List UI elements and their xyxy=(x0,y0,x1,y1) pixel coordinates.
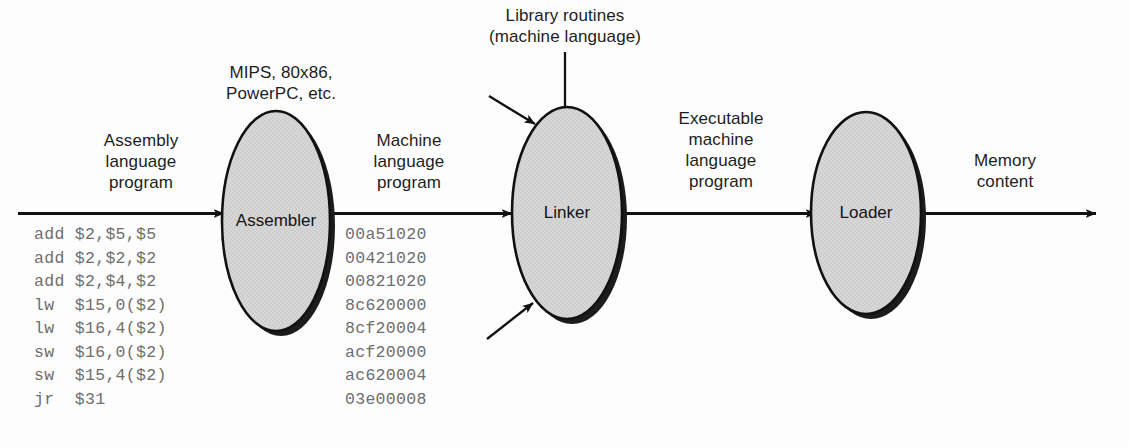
assembly-code-line: add $2,$4,$2 xyxy=(34,270,167,294)
arrow-library-lower-diagonal xyxy=(487,303,533,339)
machine-code-line: acf20000 xyxy=(345,341,427,365)
machine-code-line: 8cf20004 xyxy=(345,317,427,341)
diagram-vector-layer xyxy=(0,0,1129,447)
assembly-code-listing: add $2,$5,$5add $2,$2,$2add $2,$4,$2lw $… xyxy=(34,223,167,411)
machine-code-line: 00821020 xyxy=(345,270,427,294)
label-assembly-language-program: Assembly language program xyxy=(66,130,216,193)
assembly-code-line: jr $31 xyxy=(34,388,167,412)
loader-node-label: Loader xyxy=(806,203,926,223)
machine-code-line: 00a51020 xyxy=(345,223,427,247)
assembly-code-line: lw $15,0($2) xyxy=(34,294,167,318)
machine-code-line: 00421020 xyxy=(345,247,427,271)
machine-code-listing: 00a5102000421020008210208c6200008cf20004… xyxy=(345,223,427,411)
figure-canvas: Assembler Linker Loader Assembly languag… xyxy=(0,0,1129,447)
label-machine-language-program: Machine language program xyxy=(336,130,482,193)
machine-code-line: 03e00008 xyxy=(345,388,427,412)
assembly-code-line: add $2,$2,$2 xyxy=(34,247,167,271)
assembler-node-label: Assembler xyxy=(206,211,346,231)
label-library-routines: Library routines (machine language) xyxy=(452,5,678,47)
machine-code-line: ac620004 xyxy=(345,364,427,388)
machine-code-line: 8c620000 xyxy=(345,294,427,318)
assembly-code-line: lw $16,4($2) xyxy=(34,317,167,341)
assembly-code-line: sw $16,0($2) xyxy=(34,341,167,365)
arrow-library-upper-diagonal xyxy=(489,96,535,124)
label-executable-machine-language-program: Executable machine language program xyxy=(638,108,804,192)
label-isa-note: MIPS, 80x86, PowerPC, etc. xyxy=(196,62,366,104)
assembly-code-line: sw $15,4($2) xyxy=(34,364,167,388)
assembly-code-line: add $2,$5,$5 xyxy=(34,223,167,247)
label-memory-content: Memory content xyxy=(920,150,1090,192)
linker-node-label: Linker xyxy=(507,203,627,223)
